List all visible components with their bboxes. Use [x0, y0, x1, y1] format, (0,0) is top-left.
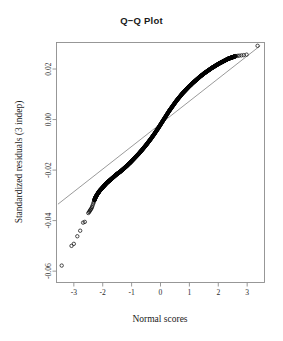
- page-title: Q−Q Plot: [120, 15, 163, 26]
- x-tick-label: 3: [245, 288, 249, 297]
- y-tick-label: 0.02: [44, 62, 53, 75]
- x-tick-label: 1: [187, 288, 191, 297]
- qq-plot-canvas: Q−Q Plot Standardized residuals (3 indep…: [0, 0, 283, 341]
- x-axis-title: Normal scores: [132, 314, 187, 324]
- y-tick-label: -0.02: [44, 162, 53, 178]
- qq-plot-figure: Q−Q Plot Standardized residuals (3 indep…: [0, 0, 283, 341]
- x-tick-label: -1: [128, 288, 135, 297]
- x-tick-label: -3: [71, 288, 78, 297]
- figure-background: [0, 0, 283, 341]
- y-axis-title: Standardized residuals (3 indep): [14, 101, 25, 224]
- x-tick-label: 0: [159, 288, 163, 297]
- y-tick-label: 0.00: [44, 113, 53, 126]
- x-tick-label: 2: [216, 288, 220, 297]
- x-tick-label: -2: [100, 288, 107, 297]
- y-tick-label: -0.06: [44, 263, 53, 279]
- y-tick-label: -0.04: [44, 212, 53, 228]
